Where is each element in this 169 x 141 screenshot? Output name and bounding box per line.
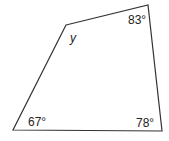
- quadrilateral-diagram: y 83° 78° 67°: [0, 0, 169, 141]
- angle-label-top-right: 83°: [128, 13, 146, 27]
- angle-label-top-left: y: [69, 31, 77, 45]
- angle-label-bottom-left: 67°: [28, 115, 46, 129]
- angle-label-bottom-right: 78°: [136, 116, 154, 130]
